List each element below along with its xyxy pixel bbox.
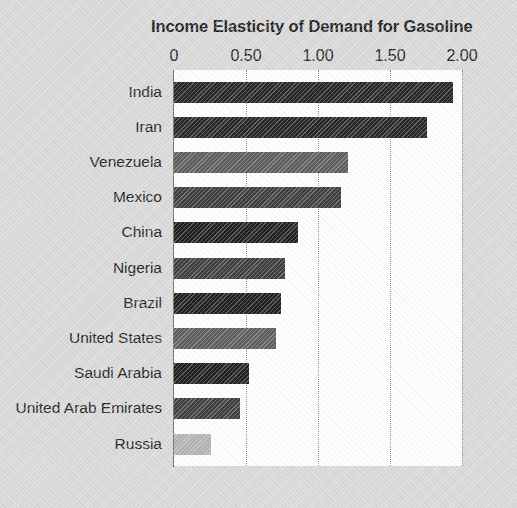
gridline-4	[462, 70, 463, 466]
bar-united-states	[174, 328, 276, 349]
x-tick-label-4: 2.00	[446, 47, 477, 65]
x-tick-label-2: 1.00	[302, 47, 333, 65]
y-label-saudi-arabia: Saudi Arabia	[0, 362, 168, 383]
bar-iran	[174, 117, 427, 138]
y-label-china: China	[0, 221, 168, 242]
x-tick-label-0: 0	[170, 47, 179, 65]
y-label-mexico: Mexico	[0, 186, 168, 207]
bar-russia	[174, 434, 211, 455]
bar-venezuela	[174, 152, 348, 173]
bar-mexico	[174, 187, 341, 208]
bar-brazil	[174, 293, 281, 314]
plot-area	[174, 70, 462, 466]
y-axis-category-labels: IndiaIranVenezuelaMexicoChinaNigeriaBraz…	[0, 70, 168, 466]
y-label-united-states: United States	[0, 327, 168, 348]
y-label-united-arab-emirates: United Arab Emirates	[0, 397, 168, 418]
bar-nigeria	[174, 258, 285, 279]
bar-saudi-arabia	[174, 363, 249, 384]
x-tick-label-1: 0.50	[230, 47, 261, 65]
bar-united-arab-emirates	[174, 398, 240, 419]
y-label-venezuela: Venezuela	[0, 151, 168, 172]
y-label-nigeria: Nigeria	[0, 257, 168, 278]
bar-china	[174, 222, 298, 243]
bar-india	[174, 82, 453, 103]
bar-chart-figure: Income Elasticity of Demand for Gasoline…	[0, 0, 517, 508]
chart-title: Income Elasticity of Demand for Gasoline	[151, 17, 481, 36]
x-axis-tick-labels: 00.501.001.502.00	[0, 47, 517, 69]
y-label-brazil: Brazil	[0, 292, 168, 313]
bar-series	[174, 70, 462, 466]
y-label-iran: Iran	[0, 116, 168, 137]
y-label-india: India	[0, 81, 168, 102]
y-label-russia: Russia	[0, 433, 168, 454]
x-tick-label-3: 1.50	[374, 47, 405, 65]
